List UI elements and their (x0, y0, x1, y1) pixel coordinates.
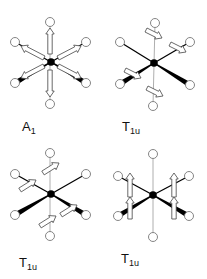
displacement-arrow-icon (60, 205, 77, 217)
displacement-arrow-icon (46, 28, 54, 54)
central-atom (47, 190, 55, 198)
displacement-arrow-icon (145, 28, 162, 39)
ligand-atom-ul (11, 38, 20, 47)
ligand-atom-lr (82, 79, 91, 88)
central-atom (149, 191, 157, 199)
displacement-arrow-icon (21, 45, 45, 60)
ligand-atom-ur (185, 172, 194, 181)
label-a1: A1 (22, 120, 36, 136)
bond-ul (120, 42, 154, 63)
label-t1u-b: T1u (19, 256, 37, 272)
displacement-arrow-icon (39, 216, 56, 228)
ligand-atom-top (149, 150, 158, 159)
ligand-atom-ul (116, 38, 125, 47)
ligand-atom-ur (82, 170, 91, 179)
ligand-atom-bottom (149, 233, 158, 242)
bond-ul (118, 176, 153, 195)
displacement-arrow-icon (169, 42, 186, 53)
label-t1u-c: T1u (121, 252, 139, 268)
displacement-arrow-icon (42, 163, 59, 175)
displacement-arrow-icon (57, 64, 81, 79)
ligand-atom-bottom (149, 102, 158, 111)
vibrational-modes-diagram (0, 0, 207, 279)
ligand-atom-ul (114, 172, 123, 181)
molecule-t1u-c (114, 150, 194, 242)
molecule-t1u-a (116, 19, 195, 111)
displacement-arrow-icon (21, 64, 45, 79)
ligand-atom-ul (11, 170, 20, 179)
central-atom (47, 58, 55, 66)
ligand-atom-top (46, 149, 55, 158)
displacement-arrow-icon (46, 70, 54, 97)
molecule-a1 (11, 18, 91, 109)
ligand-atom-lr (186, 81, 195, 90)
ligand-atom-top (46, 18, 55, 27)
ligand-atom-lr (82, 211, 91, 220)
ligand-atom-ur (82, 38, 91, 47)
ligand-atom-ll (11, 211, 20, 220)
displacement-arrow-icon (126, 173, 134, 197)
ligand-atom-lr (185, 212, 194, 221)
ligand-atom-ll (114, 212, 123, 221)
ligand-atom-ll (116, 80, 125, 89)
label-t1u-a: T1u (122, 120, 140, 136)
ligand-atom-ll (11, 79, 20, 88)
ligand-atom-bottom (46, 100, 55, 109)
displacement-arrow-icon (57, 45, 81, 60)
ligand-atom-bottom (46, 232, 55, 241)
central-atom (150, 59, 158, 67)
ligand-atom-top (151, 19, 160, 28)
displacement-arrow-icon (146, 86, 163, 97)
ligand-atom-ur (186, 38, 195, 47)
bond-ur (51, 174, 86, 194)
molecule-t1u-b (11, 149, 91, 241)
